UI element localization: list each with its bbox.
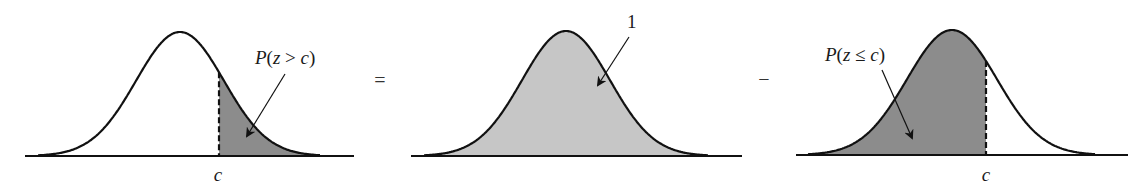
shaded-total-area	[424, 31, 708, 156]
panel-total-area: 1	[411, 11, 742, 156]
probability-label-less-equal: P(z ≤ c)	[824, 44, 885, 66]
minus-sign: −	[758, 68, 769, 90]
axis-label-c: c	[982, 164, 991, 185]
panel-left-tail: P(z > c) c	[25, 32, 354, 185]
panel-left-area: P(z ≤ c) c	[796, 30, 1128, 185]
shaded-right-tail-area	[219, 72, 320, 156]
axis-label-c: c	[214, 164, 223, 185]
normal-complement-diagram: P(z > c) c = 1 − P(z ≤ c) c	[0, 0, 1144, 192]
equals-sign: =	[374, 69, 385, 91]
total-area-label: 1	[627, 11, 637, 32]
pointer-arrow-icon	[247, 74, 285, 136]
probability-label-greater: P(z > c)	[254, 47, 315, 69]
pointer-arrow-icon	[598, 37, 629, 85]
